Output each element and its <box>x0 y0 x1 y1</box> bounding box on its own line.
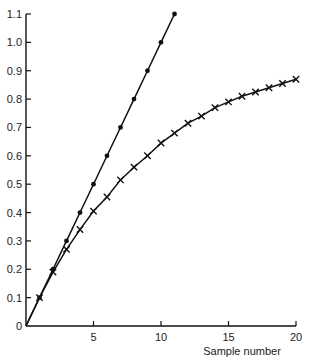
x-tick-label: 20 <box>290 331 302 343</box>
cross-marker <box>171 130 177 136</box>
cross-marker <box>144 153 150 159</box>
cross-marker <box>198 113 204 119</box>
cross-marker <box>212 104 218 110</box>
x-axis-ticks: 5101520 <box>90 321 302 343</box>
x-tick-label: 5 <box>90 331 96 343</box>
y-tick-label: 0.2 <box>7 263 22 275</box>
cross-marker <box>63 246 69 252</box>
line-chart: 00.10.20.30.40.50.60.70.80.91.01.1 51015… <box>0 0 310 363</box>
axes <box>26 14 296 326</box>
dot-marker <box>132 97 137 102</box>
y-tick-label: 0.1 <box>7 292 22 304</box>
cross-marker <box>104 194 110 200</box>
y-tick-label: 0 <box>16 320 22 332</box>
series-line <box>26 14 175 326</box>
y-tick-label: 0.6 <box>7 150 22 162</box>
dot-marker <box>172 12 177 17</box>
x-axis-title: Sample number <box>203 345 281 357</box>
dot-marker <box>159 40 164 45</box>
cross-marker <box>117 177 123 183</box>
cross-marker <box>185 120 191 126</box>
cross-marker <box>90 208 96 214</box>
dot-marker <box>145 68 150 73</box>
dot-marker <box>105 153 110 158</box>
y-tick-label: 0.8 <box>7 93 22 105</box>
y-tick-label: 0.7 <box>7 121 22 133</box>
cross-marker <box>158 140 164 146</box>
y-tick-label: 1.0 <box>7 36 22 48</box>
y-tick-label: 0.5 <box>7 178 22 190</box>
series-line <box>26 79 296 326</box>
y-tick-label: 0.9 <box>7 65 22 77</box>
cross-marker <box>131 164 137 170</box>
x-tick-label: 10 <box>155 331 167 343</box>
y-tick-label: 0.4 <box>7 207 22 219</box>
dot-marker <box>64 239 69 244</box>
y-axis-ticks: 00.10.20.30.40.50.60.70.80.91.01.1 <box>7 8 31 332</box>
dot-marker <box>91 182 96 187</box>
dot-marker <box>78 210 83 215</box>
y-tick-label: 0.3 <box>7 235 22 247</box>
series-crosses <box>26 76 299 326</box>
dot-marker <box>118 125 123 130</box>
y-tick-label: 1.1 <box>7 8 22 20</box>
cross-marker <box>77 226 83 232</box>
data-series <box>26 12 299 326</box>
cross-marker <box>225 99 231 105</box>
x-tick-label: 15 <box>222 331 234 343</box>
